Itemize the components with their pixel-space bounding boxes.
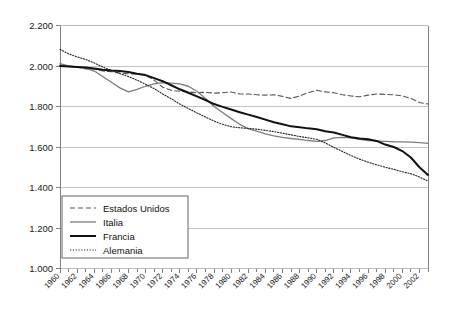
y-tick-label: 2.000: [29, 61, 53, 72]
y-tick-label: 1.400: [29, 182, 53, 193]
chart-legend: Estados UnidosItaliaFranciaAlemania: [62, 196, 188, 258]
legend-label-estados-unidos: Estados Unidos: [103, 203, 170, 214]
legend-label-alemania: Alemania: [103, 245, 143, 256]
chart-container: 1.0001.2001.4001.6001.8002.0002.200 1960…: [0, 0, 449, 311]
chart-background: [0, 0, 449, 311]
y-tick-label: 1.600: [29, 142, 53, 153]
y-tick-label: 1.000: [29, 263, 53, 274]
y-tick-label: 2.200: [29, 20, 53, 31]
line-chart: 1.0001.2001.4001.6001.8002.0002.200 1960…: [0, 0, 449, 311]
y-tick-label: 1.200: [29, 223, 53, 234]
y-tick-label: 1.800: [29, 101, 53, 112]
legend-label-italia: Italia: [103, 217, 124, 228]
legend-label-francia: Francia: [103, 231, 135, 242]
